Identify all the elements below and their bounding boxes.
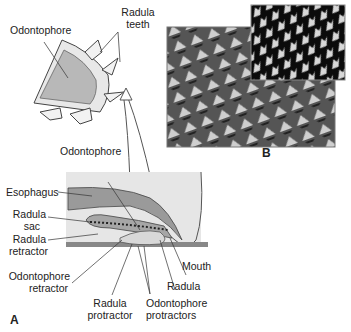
- label-radula-protractor-line1: Radula: [82, 297, 138, 309]
- label-odontophore-retractor-line1: Odontophore: [0, 270, 70, 282]
- label-odontophore: Odontophore: [60, 145, 121, 157]
- label-radula-sac-line2: sac: [0, 220, 40, 232]
- label-radula-sac-line1: Radula: [0, 208, 46, 220]
- label-radula-protractor-line2: protractor: [82, 309, 138, 321]
- label-radula-retractor-line1: Radula: [0, 233, 46, 245]
- label-odontophore-inset: Odontophore: [10, 24, 71, 36]
- buccal-mass-section: [66, 172, 208, 247]
- panel-label-b: B: [262, 146, 271, 160]
- label-radula-teeth-line1: Radula: [118, 6, 158, 18]
- label-odontophore-protractors-line2: protractors: [146, 309, 196, 321]
- odontophore-inset-drawing: [34, 32, 124, 124]
- label-radula-teeth-line2: teeth: [118, 18, 158, 30]
- panel-label-a: A: [10, 313, 19, 327]
- label-radula-retractor-line2: retractor: [0, 245, 48, 257]
- label-radula: Radula: [167, 280, 200, 292]
- label-esophagus: Esophagus: [6, 186, 59, 198]
- label-mouth: Mouth: [182, 260, 211, 272]
- label-odontophore-retractor-line2: retractor: [0, 282, 68, 294]
- sem-teeth-closeup-photo: [251, 5, 345, 80]
- label-odontophore-protractors-line1: Odontophore: [146, 297, 207, 309]
